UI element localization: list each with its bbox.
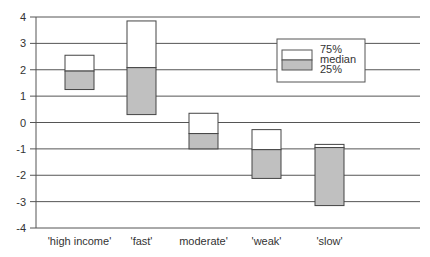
box-upper [189, 113, 218, 133]
box-upper [65, 55, 94, 71]
x-axis-labels: 'high income''fast'moderate''weak''slow' [48, 235, 343, 247]
box-chart: 43210-1-2-3-4 'high income''fast'moderat… [0, 0, 430, 257]
y-tick-label: -4 [16, 222, 26, 234]
legend: 75% median 25% [277, 39, 365, 82]
box-lower [315, 148, 344, 206]
box-lower [252, 150, 281, 179]
box-lower [127, 68, 156, 115]
y-tick-label: 4 [20, 11, 26, 23]
box-upper [252, 130, 281, 150]
x-tick-label: 'high income' [48, 235, 112, 247]
box-upper [127, 21, 156, 68]
y-tick-label: 3 [20, 37, 26, 49]
y-tick-label: 2 [20, 64, 26, 76]
legend-label-25: 25% [320, 63, 342, 75]
y-tick-label: -2 [16, 169, 26, 181]
y-axis: 43210-1-2-3-4 [16, 11, 36, 234]
box-lower [189, 134, 218, 149]
box-0 [65, 55, 94, 89]
box-2 [189, 113, 218, 149]
legend-swatch-upper [282, 50, 312, 60]
chart-canvas: 43210-1-2-3-4 'high income''fast'moderat… [0, 0, 430, 257]
y-tick-label: -1 [16, 143, 26, 155]
x-tick-label: 'slow' [316, 235, 342, 247]
box-1 [127, 21, 156, 115]
x-tick-label: 'weak' [252, 235, 282, 247]
x-tick-label: 'fast' [131, 235, 153, 247]
y-tick-label: 1 [20, 90, 26, 102]
box-lower [65, 71, 94, 89]
box-4 [315, 144, 344, 205]
legend-swatch-lower [282, 60, 312, 70]
y-tick-label: -3 [16, 196, 26, 208]
box-3 [252, 130, 281, 179]
x-tick-label: moderate' [179, 235, 228, 247]
y-tick-label: 0 [20, 117, 26, 129]
